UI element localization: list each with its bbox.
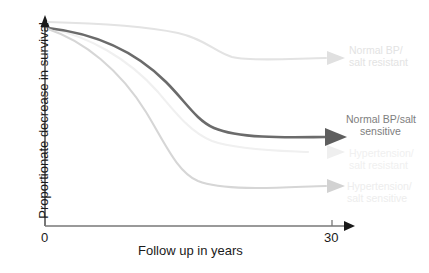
series-label-hypertension-salt-resistant: Hypertension/ salt resistant xyxy=(349,147,414,171)
x-axis-tick-label-0: 0 xyxy=(41,230,48,245)
x-axis-arrowhead xyxy=(344,221,355,231)
x-axis xyxy=(45,220,355,231)
series-arrowhead-normal-bp-salt-resistant xyxy=(327,51,345,65)
series-arrowhead-hypertension-salt-resistant xyxy=(327,145,345,159)
series-hypertension-salt-sensitive xyxy=(48,29,345,193)
survival-chart: 0 30 Follow up in years Proportionate de… xyxy=(0,0,429,273)
series-label-line-1: Normal BP/salt xyxy=(346,113,416,125)
series-arrowhead-hypertension-salt-sensitive xyxy=(327,179,345,193)
series-label-line-1: Hypertension/ xyxy=(347,180,412,192)
x-axis-title: Follow up in years xyxy=(138,243,243,258)
series-label-normal-bp-salt-resistant: Normal BP/ salt resistant xyxy=(349,44,408,68)
series-label-line-1: Normal BP/ xyxy=(349,44,408,56)
series-label-normal-bp-salt-sensitive: Normal BP/salt sensitive xyxy=(346,113,416,137)
series-label-line-2: salt sensitive xyxy=(347,192,412,204)
y-axis-title: Proportionate decrease in survival xyxy=(36,16,51,226)
series-label-line-2: salt resistant xyxy=(349,159,414,171)
series-label-line-2: salt resistant xyxy=(349,56,408,68)
x-axis-tick-label-30: 30 xyxy=(324,230,338,245)
series-label-hypertension-salt-sensitive: Hypertension/ salt sensitive xyxy=(347,180,412,204)
series-hypertension-salt-resistant xyxy=(48,28,345,159)
series-label-line-2: sensitive xyxy=(346,125,416,137)
series-normal-bp-salt-sensitive xyxy=(48,28,347,146)
series-label-line-1: Hypertension/ xyxy=(349,147,414,159)
series-arrowhead-normal-bp-salt-sensitive xyxy=(325,128,347,146)
